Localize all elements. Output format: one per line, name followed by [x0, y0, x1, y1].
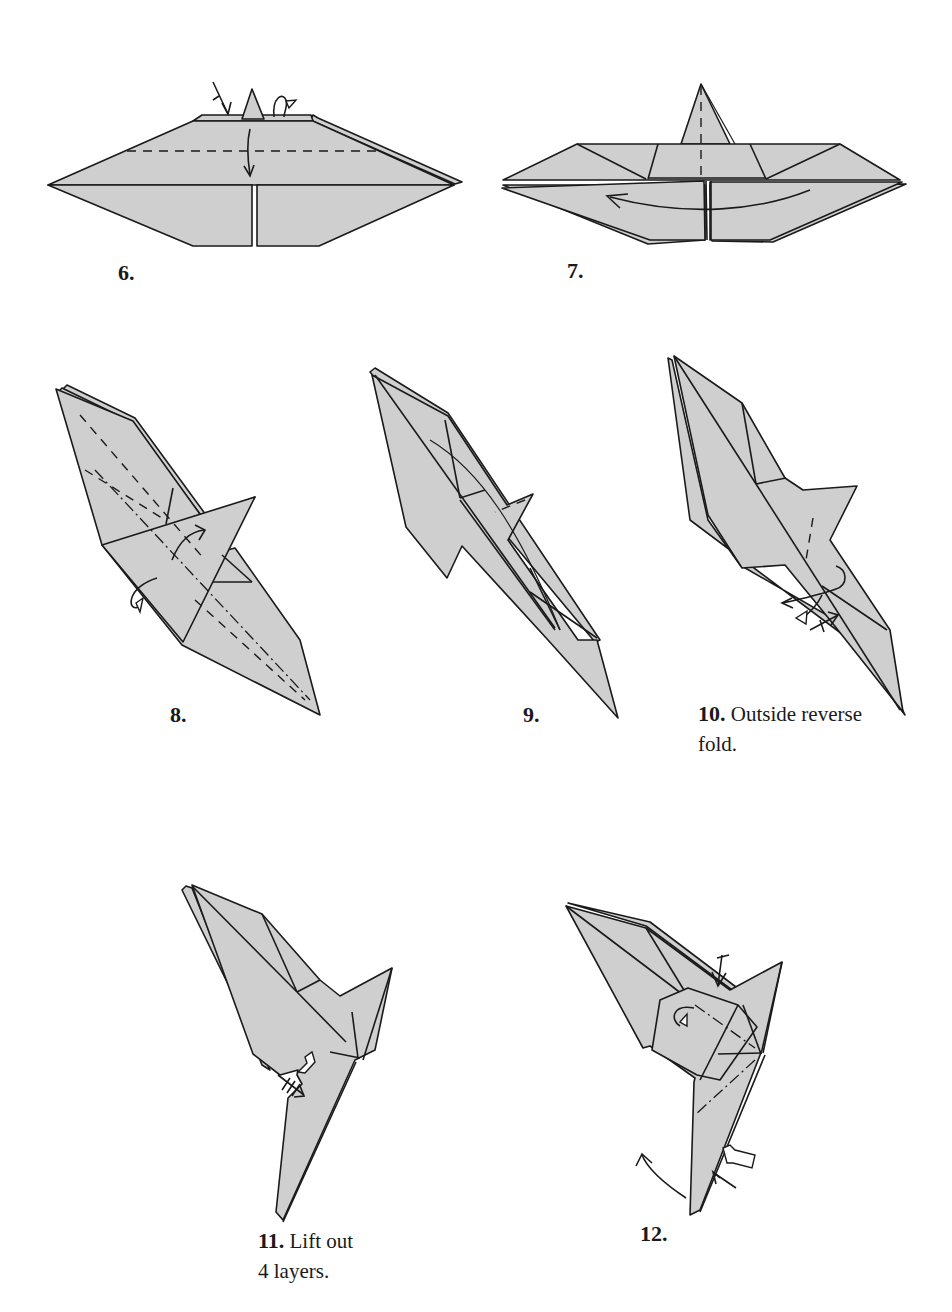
step-instruction: Outside reverse	[731, 702, 862, 726]
step-11-caption: 11. Lift out 4 layers.	[258, 1226, 398, 1286]
step-12-caption: 12.	[640, 1219, 668, 1249]
push-arrow-icon	[723, 1145, 755, 1168]
step-8-diagram	[56, 385, 320, 715]
curved-arrow-icon	[642, 1155, 686, 1198]
instruction-page: 6. 7. 8. 9. 10. Outside reverse fold. 11…	[0, 0, 952, 1312]
step-8-caption: 8.	[170, 700, 187, 730]
mountain-fold-line	[95, 470, 310, 700]
step-9-caption: 9.	[523, 700, 540, 730]
step-7-caption: 7.	[567, 256, 584, 286]
step-number: 6.	[118, 260, 135, 285]
step-instruction: Lift out	[290, 1229, 354, 1253]
step-number: 11.	[258, 1228, 284, 1253]
diagram-canvas	[0, 0, 952, 1312]
step-10-diagram	[668, 356, 905, 715]
step-7-diagram	[502, 84, 906, 244]
step-number: 10.	[698, 701, 726, 726]
step-11-diagram	[182, 885, 392, 1222]
step-instruction-cont: 4 layers.	[258, 1259, 329, 1283]
step-number: 7.	[567, 258, 584, 283]
mountain-fold-arrow-icon	[274, 96, 287, 117]
step-9-diagram	[370, 368, 618, 718]
step-12-diagram	[566, 903, 782, 1215]
step-number: 9.	[523, 702, 540, 727]
step-6-diagram	[48, 82, 462, 246]
step-number: 12.	[640, 1221, 668, 1246]
step-6-caption: 6.	[118, 258, 135, 288]
step-number: 8.	[170, 702, 187, 727]
step-10-caption: 10. Outside reverse fold.	[698, 699, 888, 759]
step-instruction-cont: fold.	[698, 732, 737, 756]
